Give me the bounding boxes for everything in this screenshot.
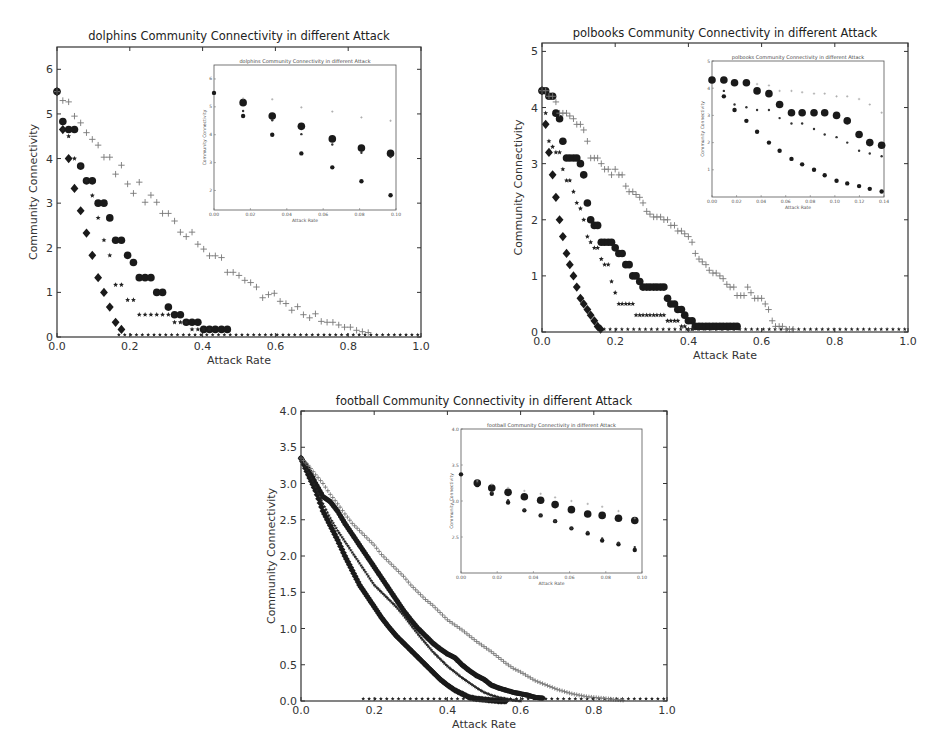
svg-text:Attack Rate: Attack Rate <box>785 205 811 210</box>
svg-text:5: 5 <box>707 59 710 64</box>
svg-text:0.04: 0.04 <box>528 575 538 580</box>
svg-text:Community Connectivity: Community Connectivity <box>202 109 207 165</box>
svg-text:4: 4 <box>707 86 710 91</box>
dolphins-inset-title: dolphins Community Connectivity in diffe… <box>239 58 370 65</box>
svg-text:0.10: 0.10 <box>391 212 401 217</box>
football-title: football Community Connectivity in diffe… <box>336 394 633 408</box>
x-tick-label: 0.8 <box>585 704 603 717</box>
svg-text:1: 1 <box>707 167 710 172</box>
x-tick-label: 0.6 <box>512 704 530 717</box>
y-tick-label: 4.0 <box>280 405 298 418</box>
svg-text:0.00: 0.00 <box>209 212 219 217</box>
y-tick-label: 4 <box>531 102 538 115</box>
polbooks-inset-title: polbooks Community Connectivity in diffe… <box>732 54 864 61</box>
svg-text:0.02: 0.02 <box>492 575 502 580</box>
y-tick-label: 2.5 <box>280 514 298 527</box>
y-tick-label: 2 <box>46 242 53 255</box>
y-tick-label: 6 <box>46 63 53 76</box>
y-tick-label: 3.0 <box>280 478 298 491</box>
x-tick-label: 0.6 <box>267 340 285 353</box>
x-tick-label: 0.4 <box>194 340 212 353</box>
polbooks-ylabel: Community Connectivity <box>512 119 525 256</box>
y-tick-label: 3.5 <box>280 441 298 454</box>
svg-text:6: 6 <box>209 76 212 81</box>
football-ylabel: Community Connectivity <box>265 487 278 624</box>
svg-text:Community Connectivity: Community Connectivity <box>449 473 454 529</box>
svg-text:0.00: 0.00 <box>456 575 466 580</box>
y-tick-label: 0.5 <box>280 659 298 672</box>
dolphins-chart: dolphins Community Connectivity in diffe… <box>27 29 430 367</box>
svg-text:0.02: 0.02 <box>732 199 742 204</box>
svg-text:3.5: 3.5 <box>452 463 459 468</box>
x-tick-label: 0.2 <box>365 704 383 717</box>
svg-text:0.08: 0.08 <box>601 575 611 580</box>
svg-text:Community Connectivity: Community Connectivity <box>700 101 705 157</box>
svg-text:5: 5 <box>209 104 212 109</box>
svg-text:3: 3 <box>209 160 212 165</box>
svg-text:0.04: 0.04 <box>756 199 766 204</box>
svg-text:4.0: 4.0 <box>452 427 459 432</box>
x-tick-label: 0.8 <box>826 335 844 348</box>
y-tick-label: 0 <box>46 331 53 344</box>
x-tick-label: 0.2 <box>121 340 139 353</box>
dolphins-inset: dolphins Community Connectivity in diffe… <box>202 58 401 223</box>
polbooks-series-attack-star <box>540 88 695 331</box>
svg-text:3: 3 <box>707 113 710 118</box>
svg-text:2: 2 <box>707 140 710 145</box>
chart-canvas: dolphins Community Connectivity in diffe… <box>0 0 944 756</box>
svg-text:0.10: 0.10 <box>637 575 647 580</box>
y-tick-label: 2.0 <box>280 550 298 563</box>
y-tick-label: 1.0 <box>280 623 298 636</box>
svg-text:Attack Rate: Attack Rate <box>292 218 318 223</box>
y-tick-label: 1 <box>46 286 53 299</box>
polbooks-xlabel: Attack Rate <box>693 349 757 362</box>
svg-text:0.08: 0.08 <box>355 212 365 217</box>
svg-text:2.5: 2.5 <box>452 535 459 540</box>
svg-text:0.12: 0.12 <box>854 199 864 204</box>
polbooks-chart: polbooks Community Connectivity in diffe… <box>512 26 917 362</box>
x-tick-label: 1.0 <box>899 335 917 348</box>
dolphins-ylabel: Community Connectivity <box>27 123 40 260</box>
polbooks-baseline-markers <box>602 327 906 331</box>
y-tick-label: 3 <box>531 158 538 171</box>
y-tick-label: 5 <box>46 108 53 121</box>
polbooks-title: polbooks Community Connectivity in diffe… <box>573 26 878 40</box>
y-tick-label: 3 <box>46 197 53 210</box>
dolphins-baseline-markers <box>117 333 420 337</box>
y-tick-label: 2 <box>531 214 538 227</box>
y-tick-label: 0 <box>531 326 538 339</box>
svg-text:0.06: 0.06 <box>565 575 575 580</box>
football-chart: football Community Connectivity in diffe… <box>265 394 676 731</box>
svg-text:0.14: 0.14 <box>879 199 889 204</box>
y-tick-label: 5 <box>531 45 538 58</box>
dolphins-title: dolphins Community Connectivity in diffe… <box>88 29 390 43</box>
polbooks-series-attack-diamond <box>538 86 604 334</box>
svg-text:Attack Rate: Attack Rate <box>538 581 564 586</box>
x-tick-label: 0.4 <box>439 704 457 717</box>
x-tick-label: 1.0 <box>658 704 676 717</box>
dolphins-xlabel: Attack Rate <box>207 354 271 367</box>
svg-text:0.02: 0.02 <box>245 212 255 217</box>
y-tick-label: 4 <box>46 153 53 166</box>
football-xlabel: Attack Rate <box>452 718 516 731</box>
x-tick-label: 0.4 <box>680 335 698 348</box>
svg-text:0.06: 0.06 <box>318 212 328 217</box>
x-tick-label: 1.0 <box>412 340 430 353</box>
svg-text:0.00: 0.00 <box>707 199 717 204</box>
football-inset: football Community Connectivity in diffe… <box>449 422 647 586</box>
y-tick-label: 0.0 <box>280 695 298 708</box>
x-tick-label: 0.6 <box>753 335 771 348</box>
svg-text:0.06: 0.06 <box>781 199 791 204</box>
polbooks-series-attack-circle <box>538 87 741 330</box>
x-tick-label: 0.2 <box>606 335 624 348</box>
y-tick-label: 1.5 <box>280 586 298 599</box>
football-inset-title: football Community Connectivity in diffe… <box>487 422 616 429</box>
svg-text:0.08: 0.08 <box>805 199 815 204</box>
svg-text:0.04: 0.04 <box>282 212 292 217</box>
svg-text:2: 2 <box>209 188 212 193</box>
svg-text:4: 4 <box>209 132 212 137</box>
x-tick-label: 0.8 <box>339 340 357 353</box>
svg-text:0.10: 0.10 <box>830 199 840 204</box>
y-tick-label: 1 <box>531 270 538 283</box>
polbooks-inset: polbooks Community Connectivity in diffe… <box>700 54 889 210</box>
